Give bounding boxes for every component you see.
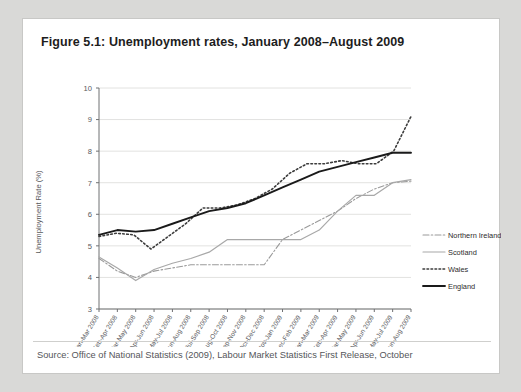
data-series-group bbox=[99, 116, 411, 280]
figure-title: Figure 5.1: Unemployment rates, January … bbox=[41, 35, 404, 49]
y-tick-label: 7 bbox=[88, 179, 92, 188]
legend-label-england: England bbox=[448, 282, 475, 291]
source-note: Source: Office of National Statistics (2… bbox=[37, 350, 412, 360]
legend-label-scotland: Scotland bbox=[448, 248, 477, 257]
y-tick-label: 8 bbox=[88, 147, 92, 156]
y-axis-ticks-group: 345678910 bbox=[84, 84, 99, 314]
y-tick-label: 9 bbox=[88, 115, 92, 124]
chart-svg: 345678910 Jan-Mar 2008Feb-Apr 2008Mar-Ma… bbox=[23, 57, 501, 347]
legend-label-northern-ireland: Northern Ireland bbox=[448, 231, 501, 240]
chart-legend: Northern IrelandScotlandWalesEngland bbox=[423, 231, 501, 291]
source-divider bbox=[33, 341, 491, 342]
y-tick-label: 5 bbox=[88, 242, 92, 251]
y-tick-label: 3 bbox=[88, 305, 92, 314]
y-tick-label: 6 bbox=[88, 210, 92, 219]
figure-panel: Figure 5.1: Unemployment rates, January … bbox=[22, 18, 500, 374]
y-axis-title: Unemployment Rate (%) bbox=[34, 170, 43, 254]
y-tick-label: 4 bbox=[88, 273, 92, 282]
legend-label-wales: Wales bbox=[448, 265, 469, 274]
y-tick-label: 10 bbox=[84, 84, 92, 93]
unemployment-line-chart: 345678910 Jan-Mar 2008Feb-Apr 2008Mar-Ma… bbox=[23, 57, 501, 347]
